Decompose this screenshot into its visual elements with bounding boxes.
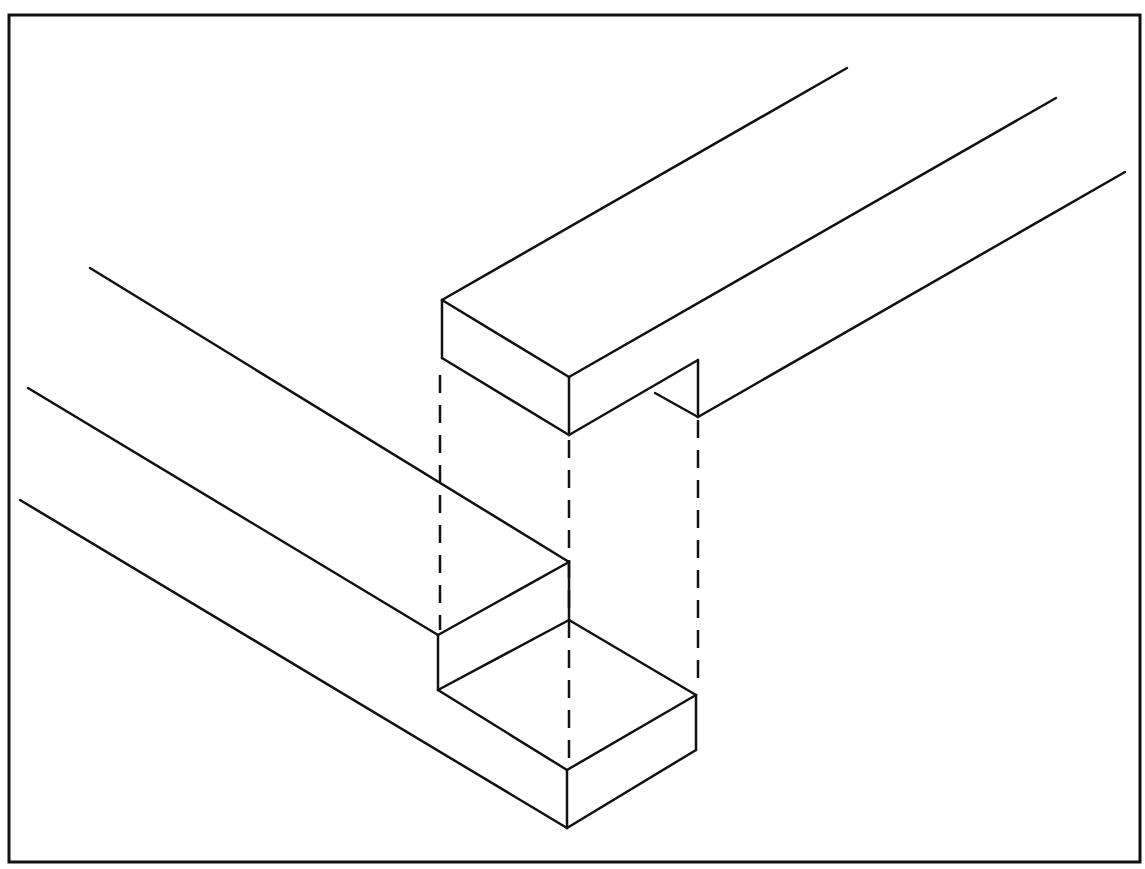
lower-piece-edge <box>567 750 696 828</box>
upper-piece-edge <box>442 358 569 435</box>
lower-piece-edge <box>90 268 569 562</box>
upper-piece-edge <box>698 172 1125 417</box>
half-lap-joint-diagram <box>0 0 1145 869</box>
lower-piece-edge <box>28 388 438 635</box>
upper-piece <box>442 68 1125 435</box>
lower-piece-edge <box>438 690 567 770</box>
lower-piece-edge <box>567 695 696 770</box>
lower-piece-edge <box>569 620 696 695</box>
lower-piece <box>20 268 696 828</box>
lower-piece-edge <box>438 562 569 635</box>
diagram-frame <box>9 15 1140 862</box>
upper-piece-edge <box>569 360 698 435</box>
upper-piece-edge <box>442 300 569 377</box>
lower-piece-edge <box>438 620 569 690</box>
upper-piece-edge <box>442 68 847 300</box>
upper-piece-edge <box>569 98 1056 377</box>
upper-piece-edge <box>655 393 698 417</box>
